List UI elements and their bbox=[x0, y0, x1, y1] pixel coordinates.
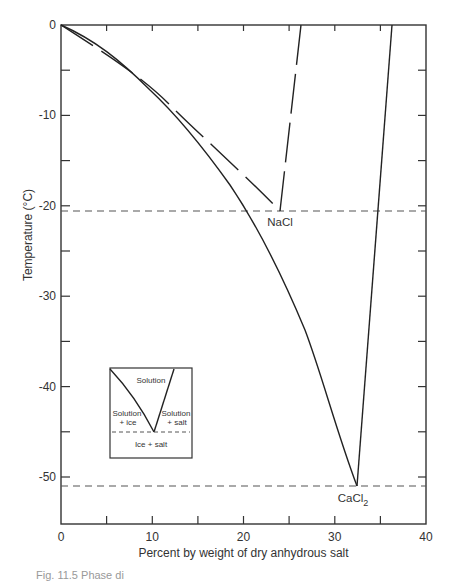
x-axis-title: Percent by weight of dry anhydrous salt bbox=[138, 546, 349, 560]
y-axis-title: Temperature (°C) bbox=[21, 189, 35, 281]
cacl2-freezing-curve bbox=[61, 25, 357, 486]
nacl-label: NaCl bbox=[267, 216, 293, 228]
y-tick-label: -30 bbox=[39, 289, 57, 303]
x-tick-label: 0 bbox=[58, 530, 65, 544]
inset-diagram: Solution Solution + ice Solution + salt … bbox=[110, 368, 192, 458]
cacl2-label-subscript: 2 bbox=[363, 498, 368, 508]
y-tick-label: -40 bbox=[39, 380, 57, 394]
inset-solution-ice-label-2: + ice bbox=[119, 418, 137, 427]
inset-solution-ice-label: Solution bbox=[113, 409, 142, 418]
x-tick-label: 10 bbox=[146, 530, 160, 544]
y-tick-label: -20 bbox=[39, 199, 57, 213]
nacl-freezing-curve bbox=[61, 25, 280, 211]
cacl2-label: CaCl2 bbox=[338, 492, 369, 508]
x-tick-label: 30 bbox=[328, 530, 342, 544]
cacl2-solubility-curve bbox=[357, 25, 392, 486]
cacl2-label-main: CaCl bbox=[338, 492, 364, 504]
inset-ice-salt-label: Ice + salt bbox=[135, 440, 168, 449]
y-tick-label: 0 bbox=[49, 18, 56, 32]
x-tick-label: 40 bbox=[419, 530, 433, 544]
inset-solution-salt-label: Solution bbox=[162, 409, 191, 418]
x-tick-label: 20 bbox=[237, 530, 251, 544]
y-tick-label: -10 bbox=[39, 108, 57, 122]
figure-caption: Fig. 11.5 Phase di bbox=[36, 569, 124, 581]
nacl-solubility-curve bbox=[280, 25, 301, 211]
inset-solution-label: Solution bbox=[137, 376, 166, 385]
y-tick-label: -50 bbox=[39, 470, 57, 484]
inset-solution-salt-label-2: + salt bbox=[167, 418, 187, 427]
